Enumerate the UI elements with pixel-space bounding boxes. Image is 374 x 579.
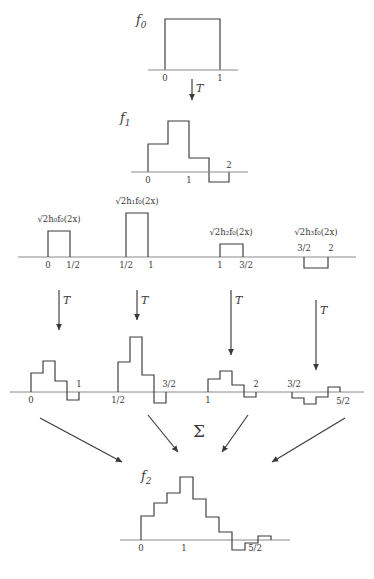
tick-row4-a-1: 1 bbox=[76, 379, 81, 389]
panel-h0-curve bbox=[48, 231, 70, 257]
tick-row3-b-0: 1/2 bbox=[119, 260, 133, 270]
label-f2-subscript: 2 bbox=[146, 476, 152, 486]
tick-row5-2: 5/2 bbox=[248, 543, 262, 553]
operator-T-h3: T bbox=[320, 304, 327, 317]
tick-row4-b-0: 1/2 bbox=[111, 395, 125, 405]
panel-h3-curve bbox=[304, 257, 328, 268]
diagram-vector-layer bbox=[0, 0, 374, 579]
label-f1: f1 bbox=[120, 110, 131, 128]
arrow-sum-from-h0 bbox=[40, 418, 122, 462]
tick-row4-d-0: 3/2 bbox=[287, 379, 301, 389]
tick-row3-a-0: 0 bbox=[45, 260, 50, 270]
operator-T-h0: T bbox=[63, 294, 70, 307]
tick-row3-a-1: 1/2 bbox=[66, 260, 80, 270]
tick-row3-d-1: 2 bbox=[328, 243, 333, 253]
tick-row4-b-1: 3/2 bbox=[162, 379, 176, 389]
tick-row4-d-1: 5/2 bbox=[336, 396, 350, 406]
tick-row1-1: 1 bbox=[217, 73, 222, 83]
label-f2: f2 bbox=[141, 468, 152, 486]
tick-row4-c-1: 2 bbox=[253, 379, 258, 389]
panel-T-h1-curve bbox=[118, 337, 166, 403]
panel-h2-curve bbox=[220, 244, 243, 257]
label-f0-subscript: 0 bbox=[141, 20, 147, 30]
tick-row4-a-0: 0 bbox=[28, 395, 33, 405]
label-h3-term: √2h₃f₀(2x) bbox=[294, 227, 337, 237]
label-h0-term: √2h₀f₀(2x) bbox=[37, 214, 80, 224]
arrow-sum-from-h2 bbox=[222, 415, 248, 452]
tick-row3-c-0: 1 bbox=[217, 260, 222, 270]
label-h2-term: √2h₂f₀(2x) bbox=[209, 227, 252, 237]
panel-f1-curve bbox=[148, 121, 229, 182]
arrow-sum-from-h3 bbox=[272, 418, 345, 462]
figure-canvas: f0 f1 f2 0 1 0 1 2 √2h₀f₀(2x) √2h₁f₀(2x)… bbox=[0, 0, 374, 579]
panel-f0-curve bbox=[165, 19, 220, 70]
panel-T-h0-curve bbox=[31, 361, 79, 400]
tick-row2-0: 0 bbox=[145, 175, 150, 185]
operator-T-h1: T bbox=[141, 294, 148, 307]
tick-row5-1: 1 bbox=[181, 543, 186, 553]
tick-row1-0: 0 bbox=[162, 73, 167, 83]
tick-row4-c-0: 1 bbox=[205, 395, 210, 405]
arrow-sum-from-h1 bbox=[148, 415, 178, 452]
label-f0: f0 bbox=[136, 12, 147, 30]
panel-T-h3-curve bbox=[292, 387, 340, 404]
panel-h1-curve bbox=[126, 213, 148, 257]
tick-row5-0: 0 bbox=[138, 543, 143, 553]
panel-T-h2-curve bbox=[208, 371, 256, 397]
tick-row2-2: 2 bbox=[226, 160, 231, 170]
operator-T-h2: T bbox=[235, 294, 242, 307]
tick-row3-d-0: 3/2 bbox=[297, 243, 311, 253]
operator-T-f0-to-f1: T bbox=[196, 82, 203, 95]
tick-row2-1: 1 bbox=[186, 175, 191, 185]
label-f1-subscript: 1 bbox=[125, 118, 131, 128]
operator-summation: Σ bbox=[193, 421, 205, 441]
tick-row3-b-1: 1 bbox=[148, 260, 153, 270]
panel-f2-curve bbox=[141, 477, 271, 550]
tick-row3-c-1: 3/2 bbox=[239, 260, 253, 270]
label-h1-term: √2h₁f₀(2x) bbox=[115, 196, 158, 206]
